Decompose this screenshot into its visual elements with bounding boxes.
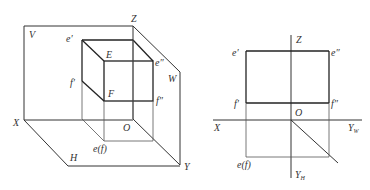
label-w: W (168, 73, 178, 84)
projection-figure: V Z W X Y H O E F e′ f′ e″ f″ e(f) Z X O… (0, 0, 370, 190)
label-yw: YW (348, 122, 360, 134)
label-f-double-prime: f″ (331, 98, 339, 109)
label-f-double-prime: f″ (156, 95, 164, 106)
cube-edge-top-left (82, 40, 104, 61)
label-e-f: e(f) (93, 143, 108, 155)
label-y: Y (184, 161, 191, 172)
label-E: E (105, 49, 112, 60)
cube-edge-bottom-left (82, 81, 104, 101)
label-F: F (107, 88, 115, 99)
label-f-prime: f′ (234, 98, 240, 109)
label-e-prime: e′ (232, 47, 239, 58)
label-z: Z (296, 34, 302, 45)
label-e-prime: e′ (66, 33, 73, 44)
label-z: Z (131, 13, 137, 24)
label-h: H (69, 152, 78, 163)
label-x: X (213, 122, 221, 133)
45-degree-line (291, 120, 338, 163)
label-yh: YH (295, 169, 306, 181)
label-f-prime: f′ (70, 77, 76, 88)
floor-edge-left (82, 119, 104, 141)
label-e-double-prime: e″ (155, 57, 164, 68)
label-o: O (123, 122, 130, 133)
label-e-double-prime: e″ (331, 47, 340, 58)
label-x: X (12, 117, 20, 128)
right-orthographic-diagram: Z X O YW YH e′ f′ e″ f″ e(f) (213, 34, 362, 181)
y-axis-line (133, 119, 180, 165)
label-e-f: e(f) (237, 159, 252, 171)
left-3d-diagram: V Z W X Y H O E F e′ f′ e″ f″ e(f) (12, 13, 191, 172)
label-v: V (29, 29, 37, 40)
label-o: O (295, 107, 302, 118)
